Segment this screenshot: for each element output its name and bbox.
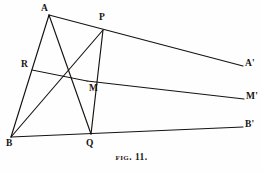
- point-label-P: P: [99, 13, 105, 23]
- ray-M-to-Mprime: [87, 81, 244, 99]
- point-label-M-prime: M': [246, 92, 258, 102]
- figure-caption-prefix: Fig.: [116, 152, 132, 162]
- point-label-R: R: [21, 60, 28, 70]
- ray-B-to-Bprime: [11, 127, 243, 137]
- point-label-Q: Q: [86, 139, 94, 149]
- point-label-B-prime: B': [245, 120, 254, 130]
- point-label-A-prime: A': [245, 59, 255, 69]
- geometry-figure: A P R M B Q A' M' B' Fig.11.: [0, 0, 263, 174]
- point-label-B: B: [6, 139, 13, 149]
- point-label-A: A: [41, 4, 48, 14]
- figure-caption-number: 11.: [135, 152, 148, 162]
- figure-drawing-canvas: [0, 0, 263, 174]
- figure-caption: Fig.11.: [0, 152, 263, 162]
- side-A-to-B: [11, 15, 49, 137]
- point-label-M: M: [89, 84, 98, 94]
- segment-R-to-M: [32, 70, 87, 81]
